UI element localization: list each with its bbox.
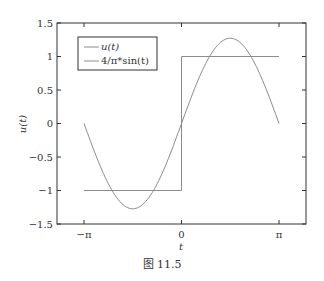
chart: −π0π1.510.50−0.5−1−1.5 t u(t) u(t) 4/π*s…	[0, 0, 324, 281]
x-tick-label: −π	[77, 229, 92, 240]
legend: u(t) 4/π*sin(t)	[78, 37, 157, 70]
x-tick-label: π	[276, 229, 283, 240]
y-tick-label: −0.5	[29, 152, 53, 163]
y-tick-label: 0.5	[37, 85, 53, 96]
figure-caption: 图 11.5	[0, 255, 324, 271]
y-axis-label: u(t)	[17, 115, 28, 133]
legend-label-sin: 4/π*sin(t)	[101, 55, 149, 66]
y-tick-label: 1.5	[37, 18, 53, 29]
y-tick-label: 1	[47, 51, 53, 62]
legend-label-u: u(t)	[101, 41, 119, 52]
y-tick-label: −1.5	[29, 219, 53, 230]
y-tick-label: 0	[47, 118, 53, 129]
y-tick-label: −1	[38, 185, 53, 196]
x-axis-label: t	[179, 241, 184, 252]
x-tick-label: 0	[178, 229, 184, 240]
